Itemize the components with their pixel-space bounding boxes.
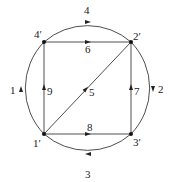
- node-label-3p: 3′: [133, 136, 141, 148]
- edge-label-3: 3: [85, 168, 91, 180]
- node-4p: [42, 40, 46, 44]
- edge-label-7: 7: [134, 85, 140, 97]
- edge-label-6: 6: [85, 43, 91, 55]
- edge-4-arrow: [85, 20, 91, 24]
- edge-1-arrow: [19, 86, 23, 92]
- node-label-1p: 1′: [33, 137, 41, 149]
- graph-diagram: 4′ 2′ 1′ 3′ 1 2 3 4 5 6 7 8 9: [0, 0, 175, 182]
- edge-4-arc: [44, 26, 131, 42]
- node-label-4p: 4′: [34, 28, 42, 40]
- edge-7-arrow: [129, 84, 133, 90]
- edge-9-arrow: [42, 84, 46, 90]
- node-label-2p: 2′: [133, 30, 141, 42]
- edge-label-9: 9: [47, 85, 53, 97]
- edge-label-2: 2: [158, 83, 164, 95]
- edge-2-arrow: [151, 86, 155, 92]
- node-1p: [42, 132, 46, 136]
- edge-3-arrow: [85, 152, 91, 156]
- edge-3-arc: [44, 134, 131, 150]
- edge-label-1: 1: [10, 84, 16, 96]
- edge-label-8: 8: [87, 121, 93, 133]
- edge-1-arc: [25, 42, 44, 134]
- edge-label-5: 5: [89, 86, 95, 98]
- edge-label-4: 4: [84, 4, 90, 16]
